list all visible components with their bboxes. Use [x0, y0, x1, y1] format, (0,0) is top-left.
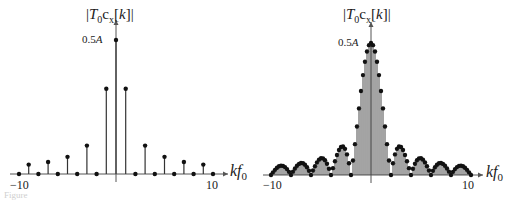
stem-plot-left	[0, 0, 255, 200]
stem-plot-right	[255, 0, 509, 200]
x-tick-neg10-right: −10	[263, 178, 282, 193]
x-tick-10-right: 10	[462, 178, 474, 193]
peak-value-label-right: 0.5A	[338, 36, 358, 48]
x-axis-label-left: kf0	[230, 162, 247, 182]
peak-value-label-left: 0.5A	[82, 33, 102, 45]
y-axis-label-right: |T0cx[k]|	[343, 6, 391, 25]
y-axis-label-left: |T0cx[k]|	[86, 6, 134, 25]
x-tick-10-left: 10	[206, 178, 218, 193]
figure-caption: Figure	[4, 190, 28, 200]
chart-right-dense-harmonics: |T0cx[k]| 0.5A −10 10 kf0	[255, 0, 509, 200]
x-axis-label-right: kf0	[486, 163, 503, 183]
chart-left-integer-harmonics: |T0cx[k]| 0.5A −10 10 kf0	[0, 0, 255, 200]
